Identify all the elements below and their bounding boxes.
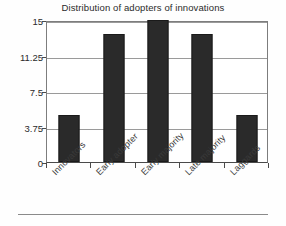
footer-divider — [18, 214, 268, 215]
x-axis-tick-mark — [179, 163, 180, 168]
y-axis-tick-label: 0 — [0, 158, 43, 169]
x-axis-tick-mark — [268, 163, 269, 168]
y-axis-tick-label: 15 — [0, 16, 43, 27]
y-axis-tick-label: 3.75 — [0, 122, 43, 133]
bar-slot — [225, 22, 269, 162]
x-axis-tick-mark — [90, 163, 91, 168]
y-axis-tick-mark — [42, 92, 46, 93]
bar-chart-figure: Distribution of adopters of innovations … — [0, 0, 286, 226]
x-axis-tick-mark — [46, 163, 47, 168]
y-axis-tick-mark — [42, 21, 46, 22]
bar — [147, 20, 168, 162]
x-axis-tick-mark — [135, 163, 136, 168]
y-axis-tick-mark — [42, 57, 46, 58]
chart-title: Distribution of adopters of innovations — [0, 2, 286, 13]
y-axis-tick-label: 11.25 — [0, 51, 43, 62]
bar-slot — [47, 22, 91, 162]
x-axis-tick-mark — [224, 163, 225, 168]
y-axis-tick-label: 7.5 — [0, 87, 43, 98]
y-axis-tick-mark — [42, 128, 46, 129]
